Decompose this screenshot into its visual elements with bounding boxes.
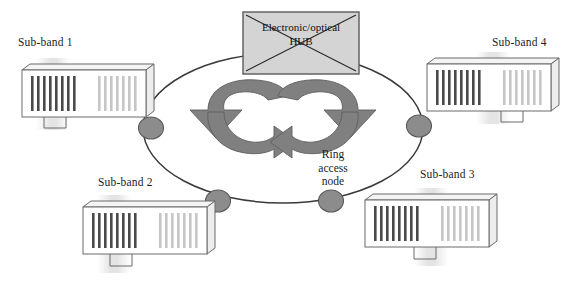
device-side-face: [551, 58, 559, 111]
hub-node[interactable]: [243, 12, 359, 74]
ring-access-node-label-line-2: access: [303, 162, 363, 176]
ring-node-bottom-right[interactable]: [319, 190, 344, 212]
sub-band-2-label: Sub-band 2: [98, 176, 153, 188]
ring-network-diagram: Electronic/optical HUB Ring access node …: [0, 0, 571, 283]
device-side-face: [207, 201, 215, 254]
diagram-canvas: [0, 0, 571, 283]
device-top-face: [22, 64, 154, 70]
ring-node-left[interactable]: [139, 117, 164, 139]
device-body: [427, 64, 551, 111]
ring-ellipse: [143, 53, 423, 203]
rotation-arrow-right: [270, 80, 376, 158]
sub-band-4-label: Sub-band 4: [492, 36, 547, 48]
ring-access-node-label: Ring access node: [303, 148, 363, 189]
device-body: [365, 200, 489, 247]
device-side-face: [489, 194, 497, 247]
device-body: [22, 70, 146, 117]
device-top-face: [83, 201, 215, 207]
device-top-face: [427, 58, 559, 64]
ring-access-node-label-line-1: Ring: [303, 148, 363, 162]
device-side-face: [146, 64, 154, 117]
device-top-face: [365, 194, 497, 200]
device-body: [83, 207, 207, 254]
sub-band-3-label: Sub-band 3: [420, 168, 475, 180]
ring-access-node-label-line-3: node: [303, 175, 363, 189]
sub-band-1-label: Sub-band 1: [18, 36, 73, 48]
ring-node-right[interactable]: [407, 115, 432, 137]
